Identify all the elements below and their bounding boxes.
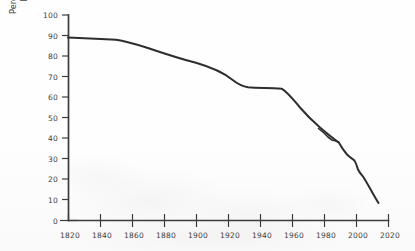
chart-figure: Percentage of world population living in… <box>0 0 415 251</box>
y-tick-label: 60 <box>32 93 58 102</box>
y-tick-label: 40 <box>32 134 58 143</box>
y-tick-label: 30 <box>32 154 58 163</box>
x-tick-label: 1880 <box>156 231 176 240</box>
x-tick-label: 1900 <box>188 231 208 240</box>
x-tick-label: 2020 <box>380 231 400 240</box>
series-line-continuation <box>339 142 379 203</box>
x-tick-label: 1820 <box>60 231 80 240</box>
y-tick-label: 70 <box>32 72 58 81</box>
x-tick-label: 1940 <box>252 231 272 240</box>
series-line-main <box>68 38 338 143</box>
plot-area <box>0 0 415 251</box>
y-tick-label: 10 <box>32 195 58 204</box>
x-tick-label: 1960 <box>284 231 304 240</box>
y-tick-label: 0 <box>32 216 58 225</box>
y-tick-label: 20 <box>32 175 58 184</box>
y-tick-label: 90 <box>32 31 58 40</box>
y-tick-label: 80 <box>32 52 58 61</box>
x-tick-label: 1860 <box>124 231 144 240</box>
y-tick-label: 50 <box>32 113 58 122</box>
y-tick-label: 100 <box>32 11 58 20</box>
x-tick-label: 1920 <box>220 231 240 240</box>
x-tick-label: 1980 <box>316 231 336 240</box>
x-tick-label: 1840 <box>92 231 112 240</box>
x-tick-label: 2000 <box>348 231 368 240</box>
